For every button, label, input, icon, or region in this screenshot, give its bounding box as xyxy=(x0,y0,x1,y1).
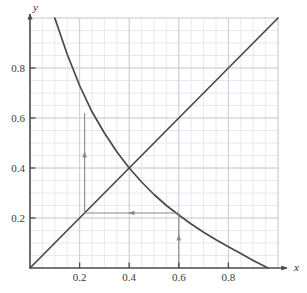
y-tick-label-2: 0.6 xyxy=(0,113,25,124)
y-tick-label-0: 0.2 xyxy=(0,213,25,224)
x-axis-label: x xyxy=(294,262,299,273)
y-axis-label: y xyxy=(33,2,38,13)
x-tick-label-2: 0.6 xyxy=(172,272,186,283)
y-tick-label-3: 0.8 xyxy=(0,63,25,74)
x-tick-label-0: 0.2 xyxy=(73,272,87,283)
x-tick-label-3: 0.8 xyxy=(222,272,236,283)
y-tick-label-1: 0.4 xyxy=(0,163,25,174)
figure-background xyxy=(0,0,307,293)
plot-canvas xyxy=(0,0,307,293)
cobweb-diagram-figure: 0.2 0.4 0.6 0.8 0.2 0.4 0.6 0.8 y x xyxy=(0,0,307,293)
x-tick-label-1: 0.4 xyxy=(122,272,136,283)
